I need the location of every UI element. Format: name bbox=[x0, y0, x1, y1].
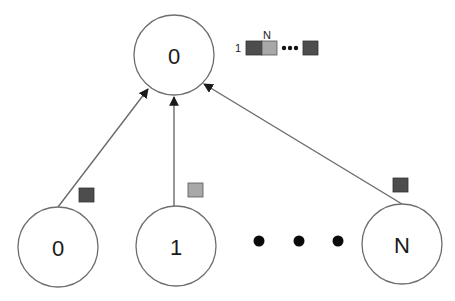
packet-square-child0 bbox=[79, 188, 94, 202]
legend-ellipsis-dot bbox=[294, 46, 298, 50]
packet-square-childN bbox=[393, 178, 408, 192]
ellipsis-dot bbox=[254, 236, 265, 247]
child-node-0-label: 0 bbox=[52, 236, 64, 261]
legend-start-label: 1 bbox=[235, 42, 241, 54]
root-node: 0 bbox=[134, 15, 214, 95]
legend-ellipsis-dot bbox=[288, 46, 292, 50]
ellipsis-dot bbox=[294, 236, 305, 247]
packet-square-child1 bbox=[188, 183, 203, 197]
legend-ellipsis-dot bbox=[282, 46, 286, 50]
ellipsis-dots bbox=[254, 236, 344, 247]
ellipsis-dot bbox=[333, 236, 344, 247]
child-node-0: 0 bbox=[18, 207, 98, 287]
child-node-N-label: N bbox=[394, 233, 410, 258]
edge-childN-to-root bbox=[204, 84, 402, 204]
legend-cell-light bbox=[262, 41, 277, 55]
child-node-N: N bbox=[362, 204, 442, 284]
edge-child0-to-root bbox=[58, 89, 148, 207]
child-node-1: 1 bbox=[136, 206, 216, 286]
broadcast-tree-diagram: 0 0 1 N 1 N bbox=[0, 0, 455, 301]
legend-top-label: N bbox=[263, 29, 271, 41]
root-node-label: 0 bbox=[168, 44, 180, 69]
child-node-1-label: 1 bbox=[170, 235, 182, 260]
legend-cell-dark bbox=[246, 41, 262, 55]
legend-cell-dark-end bbox=[303, 41, 318, 55]
packet-sequence-legend: 1 N bbox=[235, 29, 318, 55]
